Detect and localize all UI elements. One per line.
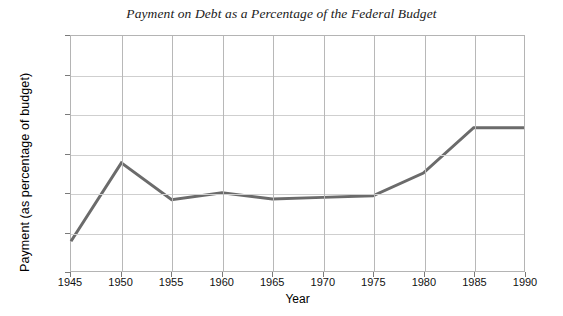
plot-area [70,35,525,272]
x-axis-tick-label: 1990 [513,276,537,288]
gridline-vertical [122,36,123,271]
gridline-vertical [223,36,224,271]
series-line-payment-on-debt [71,128,524,242]
gridline-vertical [374,36,375,271]
gridline-vertical [273,36,274,271]
gridline-vertical [475,36,476,271]
x-axis-tick-label: 1960 [209,276,233,288]
y-axis-tick-mark [65,154,70,155]
chart-figure: Payment on Debt as a Percentage of the F… [0,0,563,316]
y-axis-title: Payment (as percentage of budget) [18,73,32,272]
gridline-horizontal [71,76,524,77]
y-axis-tick-mark [65,75,70,76]
y-axis-tick-mark [65,233,70,234]
gridline-vertical [172,36,173,271]
gridline-horizontal [71,155,524,156]
x-axis-tick-label: 1970 [311,276,335,288]
x-axis-tick-label: 1945 [58,276,82,288]
line-series [71,36,524,271]
gridline-horizontal [71,194,524,195]
y-axis-tick-mark [65,35,70,36]
x-axis-tick-label: 1950 [108,276,132,288]
plot-inner [71,36,524,271]
y-axis-tick-mark [65,114,70,115]
x-axis-tick-label: 1985 [462,276,486,288]
gridline-vertical [324,36,325,271]
chart-title: Payment on Debt as a Percentage of the F… [0,6,563,22]
x-axis-tick-label: 1965 [260,276,284,288]
gridline-horizontal [71,234,524,235]
y-axis-tick-mark [65,193,70,194]
x-axis-tick-label: 1980 [412,276,436,288]
x-axis-tick-label: 1955 [159,276,183,288]
x-axis-tick-label: 1975 [361,276,385,288]
gridline-vertical [425,36,426,271]
x-axis-title: Year [70,292,525,306]
gridline-horizontal [71,115,524,116]
